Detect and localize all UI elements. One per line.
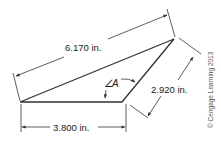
dimension-arrow-right-bottom: [148, 96, 161, 116]
angle-label: A: [111, 78, 119, 89]
long-side-label: 6.170 in.: [65, 42, 101, 53]
triangle-diagram: 6.170 in. 3.800 in. 2.920 in. ∠ A © Ceng…: [0, 0, 221, 147]
bottom-side-label: 3.800 in.: [53, 122, 89, 133]
copyright-text: © Cengage Learning 2013: [207, 51, 215, 128]
angle-arrow-right-icon: [121, 79, 135, 82]
extension-line-right-bottom: [130, 105, 148, 118]
dimension-arrow-right-top: [178, 57, 193, 80]
angle-annotation: ∠ A: [104, 78, 135, 98]
dimension-arrow-right: [108, 15, 167, 39]
extension-line-left: [13, 73, 20, 101]
extension-line-top: [167, 9, 175, 37]
angle-arrow-down-icon: [105, 90, 106, 98]
extension-line-right-top: [179, 38, 201, 54]
dimension-bottom-side: 3.800 in.: [21, 104, 126, 133]
right-side-label: 2.920 in.: [151, 84, 187, 95]
dimension-arrow-left: [16, 57, 64, 76]
